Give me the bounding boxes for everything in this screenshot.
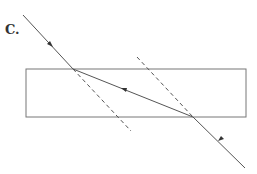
incident-ray [23, 15, 73, 69]
refraction-diagram [0, 0, 257, 174]
refracted-ray [73, 69, 193, 117]
normal-line-right [137, 57, 193, 117]
emergent-ray [193, 117, 245, 168]
glass-block [26, 69, 246, 117]
normal-line-left [73, 69, 131, 131]
arrow-icon-refracted [121, 88, 127, 92]
arrow-icon-emergent [218, 136, 224, 141]
